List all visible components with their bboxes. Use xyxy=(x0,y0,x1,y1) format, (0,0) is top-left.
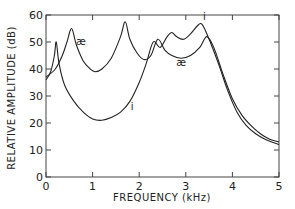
curve-label: i xyxy=(131,101,134,112)
x-tick-label: 0 xyxy=(43,180,50,193)
y-tick-label: 50 xyxy=(29,36,43,49)
ticks: 0123450102030405060 xyxy=(29,9,283,193)
y-tick-label: 20 xyxy=(29,117,43,130)
x-tick-label: 1 xyxy=(89,180,96,193)
curve-label: æ xyxy=(176,57,186,68)
curve-label: i xyxy=(203,11,206,22)
annotations: ææii xyxy=(76,11,206,111)
chart: 0123450102030405060 ææii FREQUENCY (kHz)… xyxy=(0,0,295,209)
y-axis-title: RELATIVE AMPLITUDE (dB) xyxy=(6,26,17,170)
x-tick-label: 5 xyxy=(276,180,283,193)
x-tick-label: 4 xyxy=(229,180,236,193)
y-tick-label: 60 xyxy=(29,9,43,22)
y-tick-label: 10 xyxy=(29,144,43,157)
x-axis-title: FREQUENCY (kHz) xyxy=(113,192,211,203)
y-tick-label: 30 xyxy=(29,90,43,103)
y-tick-label: 0 xyxy=(36,171,43,184)
curve-label: æ xyxy=(76,36,86,47)
y-tick-label: 40 xyxy=(29,63,43,76)
